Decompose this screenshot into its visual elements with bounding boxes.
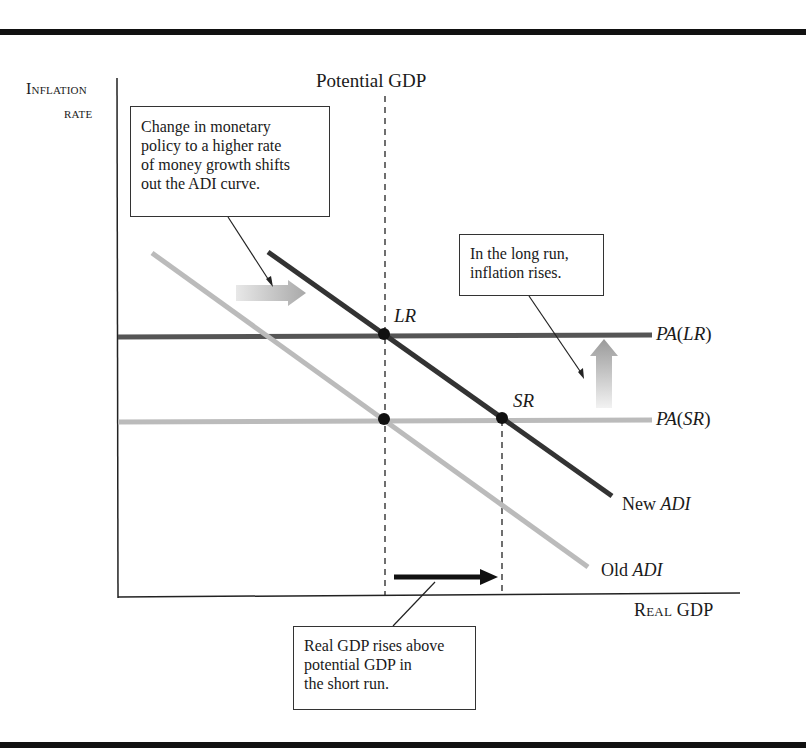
potential-gdp-label: Potential GDP <box>316 70 426 92</box>
pa-lr-prefix: PA <box>656 323 677 344</box>
inflation-rise-arrow-icon <box>590 339 618 408</box>
annotation-line: policy to a higher rate <box>141 136 319 155</box>
new-adi-label: New ADI <box>622 494 691 515</box>
new-adi-word: New <box>622 494 661 514</box>
pa-sr-inner: SR <box>683 408 704 429</box>
gdp-rise-arrow-icon <box>480 569 498 585</box>
old-adi-ital: ADI <box>633 560 663 580</box>
sr-point <box>496 412 508 424</box>
x-axis-label: Real GDP <box>634 600 713 621</box>
annotation-line: In the long run, <box>470 244 593 263</box>
annotation-line: out the ADI curve. <box>141 174 319 193</box>
short-run-leader-line <box>393 582 435 626</box>
y-axis <box>117 78 118 598</box>
short-run-annotation: Real GDP rises above potential GDP in th… <box>293 626 476 710</box>
pa-sr-prefix: PA <box>656 408 677 429</box>
new-adi-ital: ADI <box>661 494 691 514</box>
lr-point-label: LR <box>394 305 416 327</box>
monetary-leader-line <box>228 217 270 282</box>
monetary-policy-annotation: Change in monetary policy to a higher ra… <box>130 106 330 217</box>
old-adi-word: Old <box>601 560 633 580</box>
y-axis-label-line2: rate <box>64 104 92 122</box>
pa-sr-close: ) <box>704 408 710 429</box>
pa-lr-inner: LR <box>683 323 705 344</box>
annotation-line: inflation rises. <box>470 263 593 282</box>
initial-point <box>378 413 390 425</box>
sr-point-label: SR <box>513 390 534 412</box>
annotation-line: the short run. <box>304 674 465 693</box>
pa-sr-label: PA(SR) <box>656 408 711 430</box>
pa-lr-close: ) <box>705 323 711 344</box>
long-run-annotation: In the long run, inflation rises. <box>459 234 604 296</box>
annotation-line: potential GDP in <box>304 655 465 674</box>
x-axis <box>118 593 740 597</box>
annotation-line: Change in monetary <box>141 117 319 136</box>
y-axis-label-line1: Inflation <box>26 80 87 98</box>
annotation-line: Real GDP rises above <box>304 636 465 655</box>
lr-point <box>378 328 390 340</box>
old-adi-label: Old ADI <box>601 560 663 581</box>
annotation-line: of money growth shifts <box>141 155 319 174</box>
pa-lr-label: PA(LR) <box>656 323 712 345</box>
